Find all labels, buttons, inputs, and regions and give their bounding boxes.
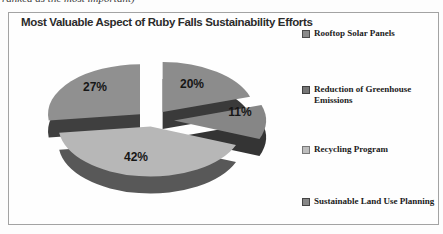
pie-label-greenhouse-percent: 11%: [228, 105, 252, 119]
pie-chart: 20% 11% 42% 27%: [0, 0, 443, 234]
scanned-chart-page: ranked as the most important) Most Valua…: [0, 0, 443, 234]
pie-slice-sustainable-land-use: [48, 64, 140, 137]
pie-label-rooftop-percent: 20%: [180, 77, 204, 91]
pie-label-recycling-percent: 42%: [124, 150, 148, 164]
pie-label-sustainable-percent: 27%: [83, 80, 107, 94]
